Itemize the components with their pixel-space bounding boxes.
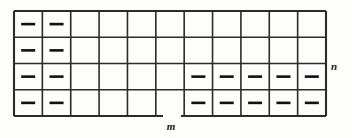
cell-dash-mark-r2-c1 xyxy=(21,49,35,52)
cell-dash-mark-r4-c10 xyxy=(276,102,290,105)
cell-dash-mark-r3-c11 xyxy=(305,75,319,78)
grid-diagram-svg: m n xyxy=(0,0,352,138)
cell-dash-mark-r3-c10 xyxy=(276,75,290,78)
cell-dash-mark-r3-c1 xyxy=(21,75,35,78)
height-label-n: n xyxy=(331,60,337,72)
cell-dash-mark-r4-c8 xyxy=(220,102,234,105)
cell-dash-mark-r3-c7 xyxy=(191,75,205,78)
cell-dash-mark-r3-c2 xyxy=(50,75,64,78)
cell-dash-mark-r4-c7 xyxy=(191,102,205,105)
cell-dash-mark-r4-c11 xyxy=(305,102,319,105)
cell-dash-mark-r1-c2 xyxy=(50,23,64,26)
cell-dash-mark-r3-c8 xyxy=(220,75,234,78)
cell-dash-mark-r1-c1 xyxy=(21,23,35,26)
cell-dash-mark-r4-c9 xyxy=(248,102,262,105)
width-label-m: m xyxy=(167,120,176,132)
cell-dash-mark-r2-c2 xyxy=(50,49,64,52)
cell-dash-mark-r3-c9 xyxy=(248,75,262,78)
grid-diagram-figure: m n xyxy=(0,0,352,138)
cell-dash-mark-r4-c2 xyxy=(50,102,64,105)
cell-dash-mark-r4-c1 xyxy=(21,102,35,105)
grid-lines-group xyxy=(14,11,326,116)
